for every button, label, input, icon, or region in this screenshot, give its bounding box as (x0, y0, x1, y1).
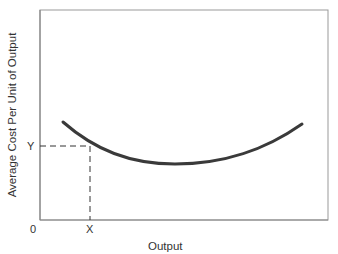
chart-canvas (0, 0, 338, 254)
x-axis-label: Output (148, 240, 183, 252)
y-marker-label: Y (27, 140, 34, 152)
x-marker-label: X (86, 223, 93, 235)
y-axis-label: Average Cost Per Unit of Output (6, 33, 18, 198)
average-cost-curve (63, 122, 302, 164)
plot-frame (40, 10, 328, 220)
origin-label: 0 (30, 223, 36, 235)
